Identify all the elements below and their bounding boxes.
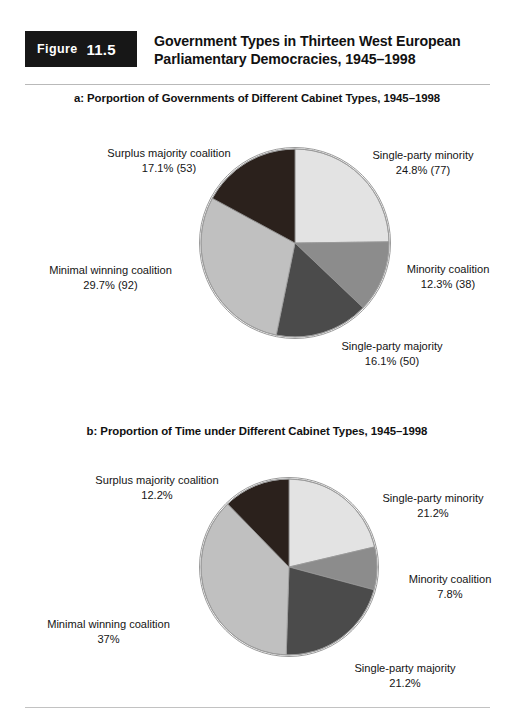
slice-label-name: Minority coalition [390, 572, 510, 587]
slice-label-value: 21.2% [330, 676, 480, 691]
slice-label-value: 12.2% [62, 488, 252, 503]
slice-label-name: Minimal winning coalition [26, 617, 191, 632]
pie-chart-b [199, 477, 379, 657]
pie-chart-b-area: Surplus majority coalition 12.2% Single-… [0, 0, 514, 720]
slice-label-value: 21.2% [358, 506, 508, 521]
slice-label-surplus-majority-coalition-b: Surplus majority coalition 12.2% [62, 473, 252, 504]
slice-label-value: 37% [26, 632, 191, 647]
slice-label-name: Single-party minority [358, 491, 508, 506]
slice-label-minority-coalition-b: Minority coalition 7.8% [390, 572, 510, 603]
slice-label-name: Single-party majority [330, 661, 480, 676]
slice-label-value: 7.8% [390, 587, 510, 602]
slice-label-minimal-winning-coalition-b: Minimal winning coalition 37% [26, 617, 191, 648]
slice-label-name: Surplus majority coalition [62, 473, 252, 488]
slice-label-single-party-majority-b: Single-party majority 21.2% [330, 661, 480, 692]
footer-divider [25, 707, 490, 708]
slice-label-single-party-minority-b: Single-party minority 21.2% [358, 491, 508, 522]
